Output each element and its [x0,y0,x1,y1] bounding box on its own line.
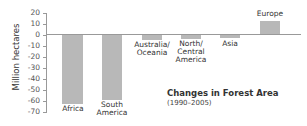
chart-subtitle: (1990–2005) [167,99,212,107]
category-label-europe: Europe [245,10,295,18]
y-tick-label: -50 [18,85,40,94]
y-tick-label: 0 [18,30,40,39]
y-tick-label: 10 [18,19,40,28]
bar-europe [260,21,280,34]
y-tick-label: -60 [18,96,40,105]
chart-title: Changes in Forest Area [167,88,278,98]
y-tick-label: -20 [18,52,40,61]
y-tick-label: -30 [18,63,40,72]
category-label-asia: Asia [205,40,255,48]
bar-asia [220,35,240,38]
category-label-south-america: SouthAmerica [87,101,137,117]
bar-south-america [102,35,122,100]
y-tick-label: 20 [18,8,40,17]
y-axis [46,13,47,113]
y-tick-label: -40 [18,74,40,83]
bar-africa [62,35,83,104]
zero-line [46,34,301,35]
y-tick-label: -70 [18,107,40,116]
y-tick-label: -10 [18,41,40,50]
